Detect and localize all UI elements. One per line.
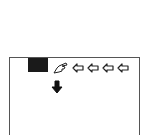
arrow-left-icon[interactable] [72, 63, 84, 73]
arrow-left-icon[interactable] [102, 63, 114, 73]
arrow-left-icon[interactable] [87, 63, 99, 73]
selection-block [28, 58, 48, 72]
pointing-hand-icon [53, 62, 68, 74]
left-arrows-group [72, 63, 129, 73]
arrow-down-icon[interactable] [51, 80, 63, 94]
arrow-left-icon[interactable] [117, 63, 129, 73]
